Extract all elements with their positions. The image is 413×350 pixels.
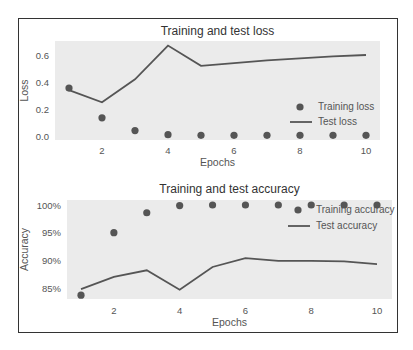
training-data-point bbox=[275, 201, 282, 208]
x-tick-label: 6 bbox=[243, 305, 248, 316]
x-axis-label: Epochs bbox=[200, 156, 235, 168]
training-data-point bbox=[362, 132, 369, 139]
training-data-point bbox=[329, 132, 336, 139]
y-axis-label: Accuracy bbox=[18, 227, 30, 271]
x-axis-label: Epochs bbox=[212, 316, 247, 328]
training-data-point bbox=[77, 292, 84, 299]
y-tick-label: 0.4 bbox=[36, 77, 49, 88]
training-data-point bbox=[131, 127, 138, 134]
x-tick-label: 8 bbox=[297, 145, 302, 156]
legend-marker-icon bbox=[294, 206, 301, 213]
y-tick-label: 0.2 bbox=[36, 104, 49, 115]
y-tick-label: 0.0 bbox=[36, 131, 49, 142]
training-data-point bbox=[308, 201, 315, 208]
legend-label: Training accuracy bbox=[316, 204, 395, 215]
accuracy-chart: Training and test accuracy85%90%95%100%2… bbox=[18, 182, 395, 328]
training-data-point bbox=[143, 209, 150, 216]
training-data-point bbox=[110, 229, 117, 236]
training-data-point bbox=[65, 84, 72, 91]
y-tick-label: 0.6 bbox=[36, 50, 49, 61]
x-tick-label: 6 bbox=[231, 145, 236, 156]
loss-chart: Training and test loss0.00.20.40.6246810… bbox=[18, 24, 380, 168]
training-data-point bbox=[176, 202, 183, 209]
x-tick-label: 2 bbox=[99, 145, 104, 156]
training-data-point bbox=[98, 114, 105, 121]
training-data-point bbox=[230, 132, 237, 139]
chart-title: Training and test loss bbox=[161, 24, 275, 38]
x-tick-label: 8 bbox=[309, 305, 314, 316]
x-tick-label: 10 bbox=[372, 305, 383, 316]
x-tick-label: 2 bbox=[111, 305, 116, 316]
legend-label: Test accuracy bbox=[316, 220, 377, 231]
x-tick-label: 4 bbox=[177, 305, 182, 316]
y-tick-label: 100% bbox=[37, 200, 62, 211]
x-tick-label: 4 bbox=[165, 145, 170, 156]
training-data-point bbox=[296, 132, 303, 139]
training-data-point bbox=[164, 131, 171, 138]
chart-title: Training and test accuracy bbox=[159, 182, 299, 196]
training-data-point bbox=[209, 201, 216, 208]
x-tick-label: 10 bbox=[361, 145, 372, 156]
y-tick-label: 95% bbox=[42, 227, 62, 238]
training-data-point bbox=[263, 132, 270, 139]
training-data-point bbox=[242, 201, 249, 208]
training-data-point bbox=[197, 132, 204, 139]
chart-canvas: Training and test loss0.00.20.40.6246810… bbox=[0, 0, 413, 350]
legend-label: Training loss bbox=[318, 101, 374, 112]
y-tick-label: 90% bbox=[42, 255, 62, 266]
legend-label: Test loss bbox=[318, 116, 357, 127]
y-axis-label: Loss bbox=[18, 79, 30, 101]
y-tick-label: 85% bbox=[42, 283, 62, 294]
legend-marker-icon bbox=[296, 103, 303, 110]
